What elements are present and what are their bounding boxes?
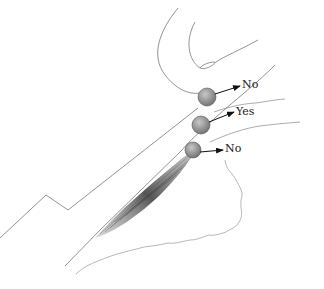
- arrow-middle-icon: [209, 112, 234, 122]
- tube-outline: [0, 65, 275, 266]
- anatomy-drawing: [0, 0, 324, 289]
- label-bottom: No: [225, 143, 241, 154]
- label-top: No: [242, 79, 258, 90]
- lower-contour: [76, 160, 242, 274]
- label-middle: Yes: [236, 106, 254, 117]
- right-contours: [210, 99, 300, 142]
- arrow-top-icon: [215, 86, 240, 94]
- sphere-top: [198, 88, 216, 106]
- arrow-bottom-icon: [200, 150, 223, 152]
- sphere-middle: [192, 116, 210, 134]
- muscle-shading: [95, 148, 196, 238]
- diagram-canvas: No Yes No: [0, 0, 324, 289]
- sphere-bottom: [185, 142, 201, 158]
